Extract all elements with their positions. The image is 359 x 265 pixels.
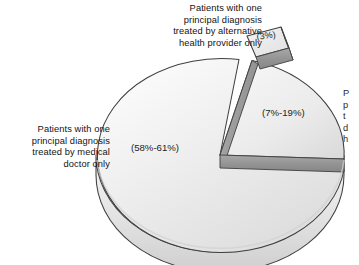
slice-value-label-mid: (7%-19%) xyxy=(262,107,305,118)
callout-label-alternative-provider: Patients with one principal diagnosis tr… xyxy=(96,3,262,49)
pie-body-3d xyxy=(96,59,344,265)
callout-label-right-clipped: P p t d h xyxy=(343,88,359,146)
slice-value-label-major: (58%-61%) xyxy=(131,142,179,153)
pie-chart-figure: Patients with one principal diagnosis tr… xyxy=(0,0,359,265)
callout-label-medical-doctor: Patients with one principal diagnosis tr… xyxy=(0,124,110,170)
